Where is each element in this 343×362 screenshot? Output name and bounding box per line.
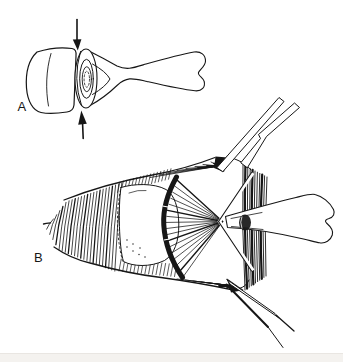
panel-a-label: A xyxy=(18,99,27,114)
proximal-bone-outline xyxy=(26,48,76,113)
arrow-down-icon xyxy=(73,20,82,51)
distal-bone-outline xyxy=(89,51,206,106)
scissors-lower-blade-tip xyxy=(268,327,283,348)
arrow-up-icon xyxy=(78,111,87,139)
medical-figure: A xyxy=(0,0,343,362)
upper-fiber-strands xyxy=(150,162,219,178)
lower-fiber-strands xyxy=(177,279,234,287)
panel-b-label: B xyxy=(34,250,43,265)
figure-canvas: A xyxy=(0,0,343,362)
panel-b-illustration: B xyxy=(34,98,334,348)
panel-a-illustration: A xyxy=(18,20,206,139)
scissors-upper-blade-tip xyxy=(277,316,295,332)
page-bottom-strip xyxy=(0,354,343,362)
